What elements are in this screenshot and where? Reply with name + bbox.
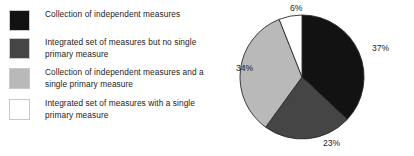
- pie-data-label-right: 37%: [372, 43, 389, 53]
- pie-data-label-top: 6%: [290, 3, 302, 13]
- legend-item-collection-and-single: Collection of independent measures and a…: [9, 67, 235, 90]
- legend-swatch-light-gray: [9, 68, 30, 89]
- legend-item-collection-independent: Collection of independent measures: [9, 9, 235, 31]
- legend-swatch-dark-gray: [9, 38, 30, 59]
- pie-chart-figure: Collection of independent measures Integ…: [0, 0, 414, 156]
- pie-slice-group: [240, 15, 364, 139]
- pie-data-label-bottom: 23%: [323, 138, 340, 148]
- legend-item-label: Collection of independent measures and a…: [45, 67, 235, 90]
- legend-item-label: Integrated set of measures with a single…: [45, 98, 235, 121]
- legend-swatch-white: [9, 99, 30, 120]
- legend-swatch-black: [9, 10, 30, 31]
- legend-item-integrated-with-single: Integrated set of measures with a single…: [9, 98, 235, 121]
- chart-legend: Collection of independent measures Integ…: [0, 0, 236, 156]
- legend-item-integrated-no-single: Integrated set of measures but no single…: [9, 37, 235, 60]
- pie-data-label-left: 34%: [236, 63, 253, 73]
- legend-item-label: Integrated set of measures but no single…: [45, 37, 235, 60]
- pie-chart-area: 6% 37% 23% 34%: [236, 0, 414, 156]
- pie-chart-svg: [236, 0, 414, 156]
- legend-item-label: Collection of independent measures: [45, 9, 235, 21]
